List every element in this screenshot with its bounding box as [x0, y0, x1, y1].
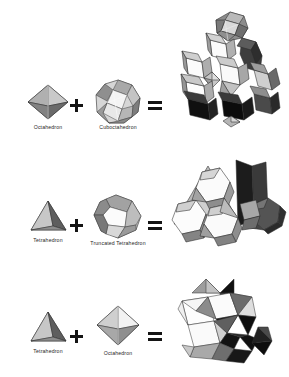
term-cuboctahedron: Cuboctahedron	[94, 79, 142, 125]
equals-operator-row2	[148, 221, 162, 230]
octahedron-icon	[94, 305, 142, 347]
cuboctahedron-icon	[94, 79, 142, 125]
truncated-tetrahedral-honeycomb-icon	[168, 158, 288, 250]
octahedron-icon	[26, 84, 70, 120]
term-octahedron-row3: Octahedron	[94, 305, 142, 347]
truncated-tetrahedron-icon	[92, 194, 144, 240]
plus-operator-row3	[70, 330, 83, 343]
equation-row-tetrahedron-octahedron: Tetrahedron Octahedron	[0, 252, 289, 377]
plus-operator-row2	[70, 219, 83, 232]
term-truncated-tetrahedron: Truncated Tetrahedron	[92, 194, 144, 240]
plus-operator-row1	[70, 99, 83, 112]
term-tetrahedral-octahedral-honeycomb	[168, 277, 288, 365]
tetrahedron-icon	[28, 199, 68, 233]
term-label: Tetrahedron	[33, 348, 62, 354]
term-cuboctahedron-octahedron-honeycomb	[168, 8, 286, 128]
term-label: Octahedron	[104, 350, 133, 356]
term-label: Tetrahedron	[33, 237, 62, 243]
equals-operator-row3	[148, 332, 162, 341]
term-label: Truncated Tetrahedron	[90, 240, 145, 246]
tetrahedron-icon	[28, 310, 68, 344]
term-tetrahedron-row2: Tetrahedron	[28, 199, 68, 233]
equation-row-cuboctahedron-octahedron: Octahedron	[0, 0, 289, 125]
term-truncated-tetrahedral-honeycomb	[168, 158, 288, 250]
figure-canvas: Octahedron	[0, 0, 289, 377]
term-octahedron: Octahedron	[26, 84, 70, 120]
equals-operator-row1	[148, 101, 162, 110]
equation-row-tetrahedron-truncated-tetrahedron: Tetrahedron Truncated Tetrahedron	[0, 126, 289, 251]
term-tetrahedron-row3: Tetrahedron	[28, 310, 68, 344]
cuboctahedron-octahedron-honeycomb-icon	[168, 8, 286, 128]
tetrahedral-octahedral-honeycomb-icon	[168, 277, 288, 365]
